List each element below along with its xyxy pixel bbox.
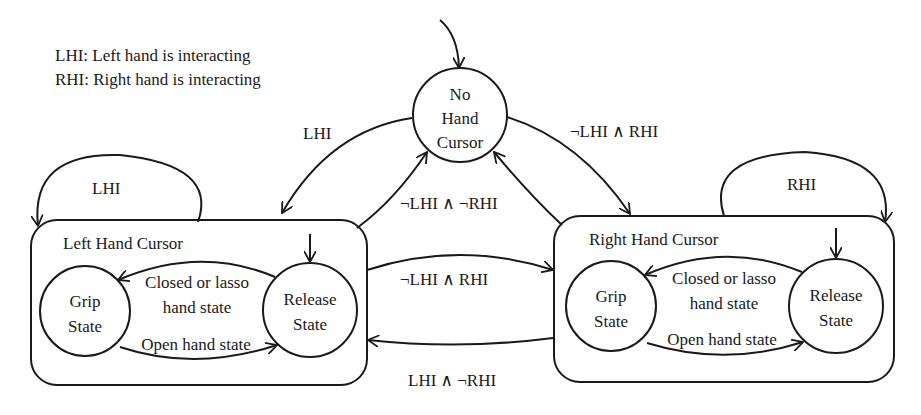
svg-text:State: State bbox=[68, 317, 102, 336]
state-right-hand-cursor: Right Hand Cursor Grip State Release Sta… bbox=[554, 216, 894, 382]
right-grip-state: Grip State bbox=[566, 261, 656, 351]
svg-text:hand state: hand state bbox=[163, 298, 231, 317]
left-release-state: Release State bbox=[263, 263, 357, 357]
left-grip-state: Grip State bbox=[40, 266, 130, 356]
svg-text:Grip: Grip bbox=[595, 287, 626, 306]
label-to-none: ¬LHI ∧ ¬RHI bbox=[400, 194, 498, 213]
no-hand-line1: No bbox=[450, 85, 471, 104]
transition-left-to-right bbox=[367, 255, 553, 270]
svg-text:hand state: hand state bbox=[690, 294, 758, 313]
no-hand-line3: Cursor bbox=[437, 133, 484, 152]
label-none-to-right: ¬LHI ∧ RHI bbox=[570, 122, 658, 141]
svg-text:State: State bbox=[594, 312, 628, 331]
svg-text:Grip: Grip bbox=[69, 292, 100, 311]
legend-rhi: RHI: Right hand is interacting bbox=[55, 70, 261, 89]
label-none-to-left: LHI bbox=[303, 124, 332, 143]
svg-text:Open hand state: Open hand state bbox=[667, 330, 777, 349]
svg-text:Open hand state: Open hand state bbox=[141, 335, 251, 354]
left-box-title: Left Hand Cursor bbox=[63, 234, 183, 253]
svg-text:State: State bbox=[819, 311, 853, 330]
label-right-self: RHI bbox=[787, 175, 817, 194]
label-left-to-right: ¬LHI ∧ RHI bbox=[400, 270, 488, 289]
state-diagram: LHI: Left hand is interacting RHI: Right… bbox=[0, 0, 921, 415]
svg-text:Closed or lasso: Closed or lasso bbox=[145, 273, 249, 292]
svg-text:Release: Release bbox=[810, 286, 863, 305]
svg-text:Release: Release bbox=[284, 290, 337, 309]
state-left-hand-cursor: Left Hand Cursor Grip State Release Stat… bbox=[31, 220, 367, 385]
svg-text:Closed or lasso: Closed or lasso bbox=[672, 269, 776, 288]
transition-left-to-none bbox=[357, 152, 427, 228]
label-left-self: LHI bbox=[92, 179, 121, 198]
svg-text:State: State bbox=[293, 315, 327, 334]
transition-right-to-left bbox=[368, 338, 553, 345]
no-hand-line2: Hand bbox=[442, 109, 479, 128]
right-box-title: Right Hand Cursor bbox=[589, 230, 719, 249]
legend-lhi: LHI: Left hand is interacting bbox=[55, 46, 251, 65]
transition-right-to-none bbox=[494, 152, 562, 225]
label-right-to-left: LHI ∧ ¬RHI bbox=[408, 371, 496, 390]
transition-none-to-left bbox=[282, 118, 412, 213]
state-no-hand-cursor: No Hand Cursor bbox=[413, 68, 507, 162]
initial-arrow-no-hand bbox=[440, 20, 459, 68]
right-release-state: Release State bbox=[789, 259, 883, 353]
